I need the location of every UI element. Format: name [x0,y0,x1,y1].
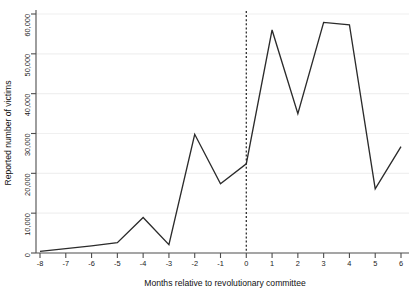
x-tick-label-1: 1 [270,259,274,268]
chart-canvas: 010,00020,00030,00040,00050,00060,000 -8… [0,0,409,293]
x-tick-label-4: 4 [347,259,351,268]
y-tick-label-20,000: 20,000 [23,173,32,196]
y-tick-label-10,000: 10,000 [23,213,32,236]
x-tick-label-2: 2 [296,259,300,268]
y-tick-label-60,000: 60,000 [23,14,32,37]
x-tick-label--2: -2 [191,259,198,268]
y-tick-label-group: 010,00020,00030,00040,00050,00060,000 [23,14,32,257]
x-tick-label--8: -8 [37,259,44,268]
y-tick-label-30,000: 30,000 [23,134,32,157]
x-tick-label-group: -8-7-6-5-4-3-2-10123456 [37,259,403,268]
x-tick-label--5: -5 [114,259,121,268]
x-axis [36,253,409,258]
x-tick-label-3: 3 [322,259,326,268]
y-axis-title: Reported number of victims [3,80,13,185]
x-axis-title: Months relative to revolutionary committ… [144,278,306,288]
victims-series-line [40,22,401,251]
x-tick-label--6: -6 [88,259,95,268]
x-tick-label--4: -4 [140,259,147,268]
x-tick-label--3: -3 [166,259,173,268]
x-tick-label--1: -1 [217,259,224,268]
x-tick-label--7: -7 [62,259,69,268]
line-chart-figure: 010,00020,00030,00040,00050,00060,000 -8… [0,0,409,293]
x-tick-label-0: 0 [244,259,248,268]
x-tick-label-6: 6 [399,259,403,268]
y-tick-label-50,000: 50,000 [23,54,32,77]
y-tick-label-0: 0 [23,253,32,257]
x-tick-label-5: 5 [373,259,377,268]
series-group [40,22,401,251]
y-tick-label-40,000: 40,000 [23,94,32,117]
